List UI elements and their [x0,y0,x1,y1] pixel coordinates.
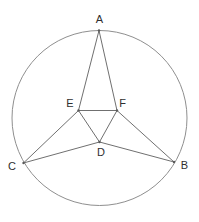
diagram-canvas: ABCDEF [0,0,199,222]
label-D: D [97,146,105,158]
segment-AF [99,31,117,111]
label-E: E [66,97,73,109]
main-circle [12,31,187,206]
label-F: F [119,97,126,109]
label-A: A [96,13,104,25]
segment-ED [79,111,100,143]
point-B [173,161,175,163]
point-E [77,109,79,111]
label-C: C [8,160,16,172]
point-C [22,162,24,164]
geometry-diagram: ABCDEF [0,0,199,222]
label-B: B [181,159,188,171]
point-A [98,29,100,31]
point-D [98,141,100,143]
segment-FD [100,111,118,143]
point-F [116,109,118,111]
segment-AE [79,31,100,111]
